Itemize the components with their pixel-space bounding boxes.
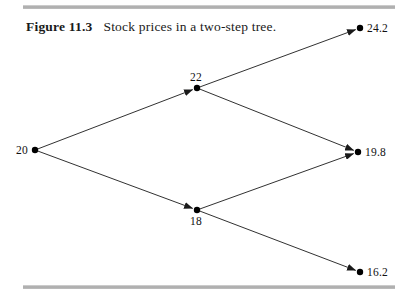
tree-edge-layer: [38, 30, 356, 271]
tree-branch-up-to-updown: [200, 89, 354, 150]
tree-node-dot-upup: [357, 25, 363, 31]
tree-branch-root-to-up: [38, 90, 193, 149]
tree-node-label-up: 22: [190, 71, 202, 83]
figure-panel: Figure 11.3Stock prices in a two-step tr…: [0, 0, 408, 298]
binomial-tree-graphic: [0, 0, 408, 298]
tree-branch-down-to-downdown: [200, 211, 356, 270]
tree-branch-up-to-upup: [200, 30, 356, 87]
tree-node-dot-root: [32, 147, 38, 153]
tree-node-layer: [32, 25, 363, 275]
bottom-divider-rule: [23, 285, 395, 289]
tree-node-label-upup: 24.2: [367, 22, 388, 34]
tree-node-label-root: 20: [16, 144, 28, 156]
tree-node-dot-down: [194, 207, 200, 213]
tree-branch-down-to-updown: [200, 154, 354, 209]
tree-node-dot-up: [194, 85, 200, 91]
tree-node-dot-updown: [355, 149, 361, 155]
tree-branch-root-to-down: [38, 151, 193, 208]
tree-node-label-updown: 19.8: [365, 146, 386, 158]
tree-node-label-down: 18: [190, 215, 202, 227]
tree-node-label-downdown: 16.2: [367, 266, 388, 278]
tree-node-dot-downdown: [357, 269, 363, 275]
